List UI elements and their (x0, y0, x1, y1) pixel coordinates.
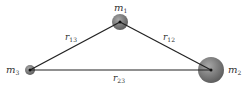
label-m1: m1 (114, 2, 127, 14)
label-r13: r13 (65, 32, 77, 43)
three-body-diagram: m1 m2 m3 r13 r12 r23 (0, 0, 246, 90)
label-r12: r12 (163, 32, 175, 43)
center-dot-m2 (210, 69, 213, 72)
label-m3: m3 (6, 64, 19, 76)
center-dot-m1 (119, 21, 122, 24)
edge-r12 (120, 22, 211, 70)
label-r23: r23 (113, 73, 125, 84)
label-m2: m2 (228, 64, 241, 76)
center-dot-m3 (29, 69, 32, 72)
edge-r13 (30, 22, 120, 70)
